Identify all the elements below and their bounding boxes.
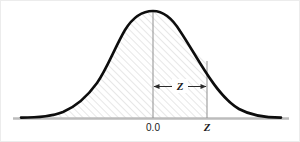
shaded-area-under-curve <box>1 1 300 142</box>
x-tick-label-mean: 0.0 <box>146 122 160 133</box>
x-tick-label-z: Z <box>203 121 211 133</box>
normal-curve-figure: Z 0.0 Z <box>0 0 300 142</box>
normal-curve-plot: Z 0.0 Z <box>1 1 300 142</box>
hatch-fill <box>1 1 300 142</box>
z-span-label: Z <box>176 80 184 92</box>
